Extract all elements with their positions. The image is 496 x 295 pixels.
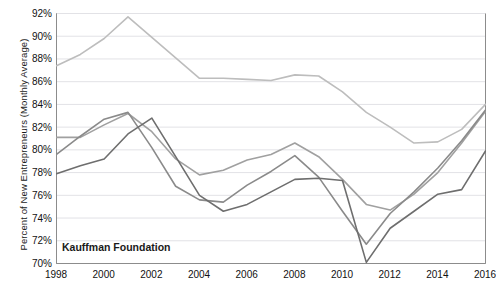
y-axis-tick-label: 70% bbox=[18, 258, 52, 269]
x-axis-tick-label: 2010 bbox=[331, 269, 353, 280]
y-axis-tick-label: 92% bbox=[18, 8, 52, 19]
x-axis-tick-label: 2004 bbox=[188, 269, 210, 280]
y-axis-tick-label: 78% bbox=[18, 167, 52, 178]
x-axis-tick-label: 2014 bbox=[426, 269, 448, 280]
y-axis-tick-labels: 70%72%74%76%78%80%82%84%86%88%90%92% bbox=[0, 0, 52, 295]
y-axis-tick-label: 80% bbox=[18, 144, 52, 155]
y-axis-tick-label: 82% bbox=[18, 121, 52, 132]
y-axis-tick-label: 90% bbox=[18, 30, 52, 41]
x-axis-tick-label: 2016 bbox=[474, 269, 496, 280]
x-axis-tick-label: 2008 bbox=[283, 269, 305, 280]
x-axis-tick-label: 2012 bbox=[379, 269, 401, 280]
x-axis-tick-label: 2002 bbox=[140, 269, 162, 280]
data-line-series-3 bbox=[57, 110, 486, 244]
x-axis-tick-label: 2000 bbox=[93, 269, 115, 280]
y-axis-tick-label: 74% bbox=[18, 212, 52, 223]
y-axis-tick-label: 76% bbox=[18, 189, 52, 200]
x-axis-tick-labels: 1998200020022004200620082010201220142016 bbox=[0, 269, 494, 291]
y-axis-tick-label: 88% bbox=[18, 53, 52, 64]
x-axis-tick-label: 1998 bbox=[45, 269, 67, 280]
plot-area bbox=[56, 13, 485, 263]
y-axis-tick-label: 86% bbox=[18, 76, 52, 87]
watermark-label: Kauffman Foundation bbox=[62, 241, 171, 253]
x-axis-tick-label: 2006 bbox=[236, 269, 258, 280]
y-axis-tick-label: 84% bbox=[18, 98, 52, 109]
y-axis-tick-label: 72% bbox=[18, 235, 52, 246]
